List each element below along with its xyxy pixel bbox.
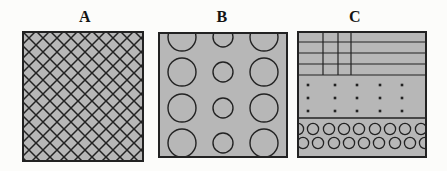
panel-c-mixed-bands-square xyxy=(297,31,427,158)
panel-b-label: B xyxy=(216,9,227,25)
panel-a-crosshatch-square xyxy=(22,31,144,162)
panel-c-label: C xyxy=(349,9,361,25)
panel-a-label: A xyxy=(79,9,91,25)
panel-b-circle-grid-square xyxy=(158,32,288,158)
textured-squares-figure: A B C xyxy=(0,0,447,171)
